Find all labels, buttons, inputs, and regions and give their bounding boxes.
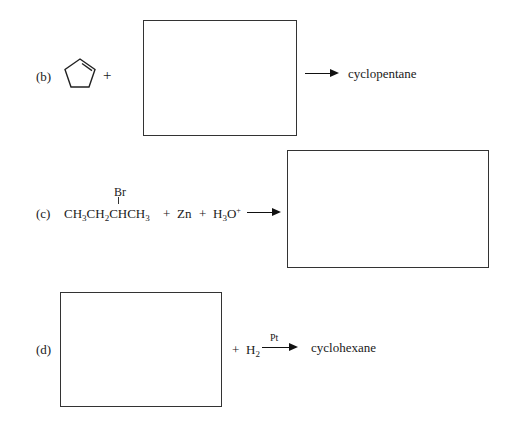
answer-box-c[interactable] [287,150,489,268]
product-name: cyclohexane [311,341,376,354]
reaction-arrow-icon [305,73,337,74]
plus-sign: + [232,343,239,356]
cyclopentene-icon [62,56,98,90]
problem-label: (b) [36,70,51,83]
reagent-hydrogen: H2 [246,343,260,356]
reagent-zinc: Zn [177,207,191,220]
product-name: cyclopentane [348,67,417,80]
problem-label: (d) [36,343,51,356]
catalyst-label: Pt [270,333,278,343]
plus-sign: + [103,68,111,83]
bromine-substituent: Br [114,186,126,198]
plus-sign: + [163,207,170,220]
reaction-arrow-icon [262,347,296,348]
answer-box-d[interactable] [60,292,222,407]
plus-sign: + [199,207,206,220]
reactant-formula: CH3CH2CHCH3 [64,207,150,220]
reaction-arrow-icon [247,212,279,213]
problem-label: (c) [36,207,50,220]
reagent-hydronium: H3O+ [213,207,241,220]
bond-line [118,197,119,204]
answer-box-b[interactable] [143,20,297,136]
